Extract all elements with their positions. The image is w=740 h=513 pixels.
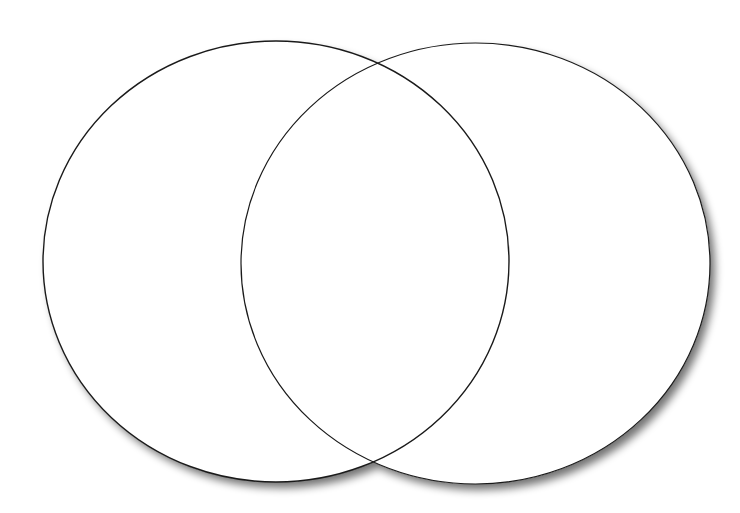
venn-shadow-group bbox=[43, 41, 710, 484]
venn-diagram bbox=[0, 0, 740, 513]
set-b-fill bbox=[241, 43, 710, 484]
